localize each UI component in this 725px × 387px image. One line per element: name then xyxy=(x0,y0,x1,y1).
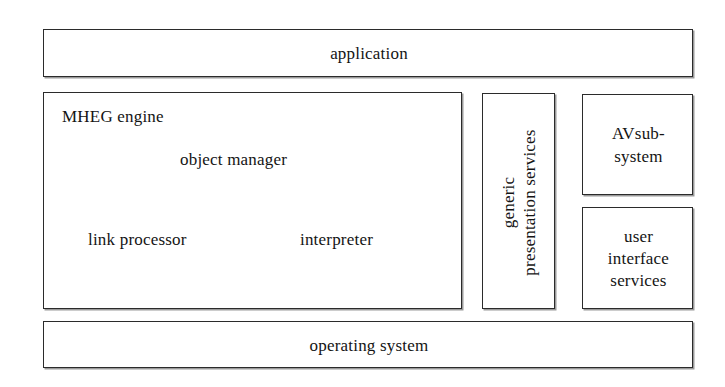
mheg-engine-box: MHEG engine object manager link processo… xyxy=(43,92,462,309)
user-interface-services-text: user interface services xyxy=(583,208,694,310)
user-interface-services-line-1: user xyxy=(624,226,653,248)
user-interface-services-line-2: interface xyxy=(608,248,669,270)
application-layer-label: application xyxy=(44,30,694,78)
interpreter-label: interpreter xyxy=(300,230,373,250)
av-subsystem-line-1: AVsub- xyxy=(612,123,665,145)
generic-presentation-services-box: generic presentation services xyxy=(482,93,555,309)
application-layer-box: application xyxy=(43,29,693,77)
link-processor-label: link processor xyxy=(88,230,187,250)
generic-presentation-services-line-1: generic xyxy=(499,176,519,227)
av-subsystem-box: AVsub- system xyxy=(582,94,693,195)
av-subsystem-line-2: system xyxy=(614,146,662,168)
mheg-engine-title: MHEG engine xyxy=(62,107,164,127)
user-interface-services-box: user interface services xyxy=(582,207,693,309)
generic-presentation-services-line-2: presentation services xyxy=(520,129,540,275)
architecture-diagram: application MHEG engine object manager l… xyxy=(0,0,725,387)
object-manager-label: object manager xyxy=(180,150,287,170)
generic-presentation-services-text: generic presentation services xyxy=(483,129,556,275)
operating-system-layer-box: operating system xyxy=(43,321,693,368)
user-interface-services-line-3: services xyxy=(610,270,666,292)
operating-system-layer-label: operating system xyxy=(44,322,694,369)
av-subsystem-text: AVsub- system xyxy=(583,95,694,196)
generic-presentation-services-rotation-wrapper: generic presentation services xyxy=(483,94,556,310)
